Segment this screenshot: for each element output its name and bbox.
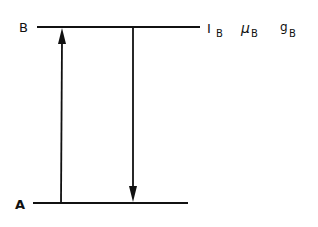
level-a-label: A bbox=[15, 197, 25, 212]
arrowhead-up-icon bbox=[58, 28, 66, 44]
level-b-properties: I B μ B g B bbox=[207, 20, 296, 39]
transition-down-arrow bbox=[129, 27, 137, 202]
gfactor-symbol: g bbox=[280, 20, 288, 34]
moment-subscript: B bbox=[251, 28, 258, 39]
gfactor-subscript: B bbox=[289, 28, 296, 39]
spin-symbol: I bbox=[207, 21, 211, 36]
level-b-label: B bbox=[19, 20, 28, 35]
transition-up-arrow bbox=[58, 28, 66, 203]
spin-subscript: B bbox=[216, 28, 223, 39]
energy-level-diagram: B I B μ B g B A bbox=[0, 0, 318, 227]
arrowhead-down-icon bbox=[129, 186, 137, 202]
moment-symbol: μ bbox=[240, 20, 250, 36]
